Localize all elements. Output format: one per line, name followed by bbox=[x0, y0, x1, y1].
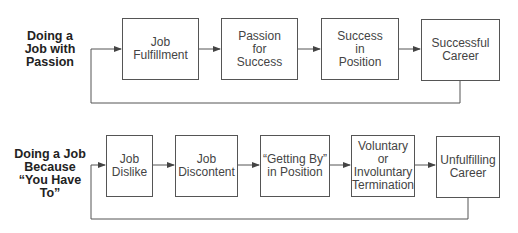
step-unfulfilling-career: Unfulfilling Career bbox=[436, 136, 500, 198]
row-label-have-to: Doing a Job Because “You Have To” bbox=[8, 148, 92, 200]
step-termination: Voluntary or Involuntary Termination bbox=[351, 135, 415, 197]
step-getting-by: “Getting By” in Position bbox=[260, 135, 330, 197]
step-job-fulfillment: Job Fulfillment bbox=[122, 18, 199, 80]
step-passion-for-success: Passion for Success bbox=[221, 18, 298, 80]
step-job-dislike: Job Dislike bbox=[106, 135, 153, 197]
step-successful-career: Successful Career bbox=[421, 19, 500, 81]
row-label-passion: Doing a Job with Passion bbox=[18, 30, 82, 69]
step-job-discontent: Job Discontent bbox=[175, 135, 238, 197]
step-success-in-position: Success in Position bbox=[321, 18, 399, 80]
